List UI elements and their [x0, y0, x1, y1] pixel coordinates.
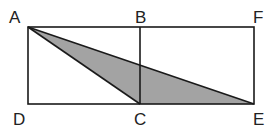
label-e: E — [253, 110, 264, 129]
label-b: B — [135, 8, 146, 27]
diagram-svg: A B F D C E — [0, 0, 274, 131]
label-c: C — [134, 110, 146, 129]
geometry-diagram: A B F D C E — [0, 0, 274, 131]
label-a: A — [9, 8, 21, 27]
label-f: F — [253, 8, 263, 27]
label-d: D — [13, 110, 25, 129]
